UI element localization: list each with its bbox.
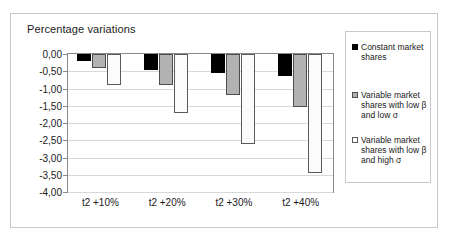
x-axis-labels: t2 +10%t2 +20%t2 +30%t2 +40% (67, 197, 334, 215)
legend-item[interactable]: Variable market shares with low β and lo… (352, 90, 430, 120)
legend-label: Variable market shares with low β and lo… (361, 90, 430, 120)
legend-item[interactable]: Variable market shares with low β and hi… (352, 135, 430, 165)
y-tick-label: -1,00 (39, 83, 62, 94)
plot-area (67, 53, 334, 193)
chart-legend: Constant market sharesVariable market sh… (345, 31, 431, 183)
x-tick-label: t2 +30% (215, 197, 252, 208)
y-tick-label: -3,00 (39, 152, 62, 163)
black-square-marker-icon (352, 44, 358, 50)
y-tick-label: -2,50 (39, 135, 62, 146)
x-tick-label: t2 +10% (82, 197, 119, 208)
y-tick-label: -0,50 (39, 66, 62, 77)
bar (92, 54, 106, 68)
legend-item[interactable]: Constant market shares (352, 42, 430, 62)
y-tick-mark (63, 192, 67, 193)
bar (174, 54, 188, 113)
y-tick-mark (63, 106, 67, 107)
y-axis-labels: 0,00-0,50-1,00-1,50-2,00-2,50-3,00-3,50-… (17, 53, 62, 193)
y-tick-label: -1,50 (39, 100, 62, 111)
bar (226, 54, 240, 95)
x-tick-label: t2 +20% (149, 197, 186, 208)
chart-page: Percentage variations 0,00-0,50-1,00-1,5… (0, 0, 451, 247)
y-tick-mark (63, 123, 67, 124)
white-square-marker-icon (352, 137, 358, 143)
y-tick-mark (63, 140, 67, 141)
y-tick-mark (63, 175, 67, 176)
y-tick-label: 0,00 (43, 49, 62, 60)
y-tick-mark (63, 54, 67, 55)
gray-square-marker-icon (352, 92, 358, 98)
bar (107, 54, 121, 85)
x-tick-label: t2 +40% (282, 197, 319, 208)
legend-label: Constant market shares (361, 42, 430, 62)
bar (308, 54, 322, 173)
bar (211, 54, 225, 73)
bars-layer (68, 54, 333, 192)
bar (278, 54, 292, 76)
gridline (68, 192, 333, 193)
y-tick-mark (63, 71, 67, 72)
bar (159, 54, 173, 85)
y-tick-label: -4,00 (39, 187, 62, 198)
bar (293, 54, 307, 107)
chart-title: Percentage variations (27, 23, 136, 35)
legend-label: Variable market shares with low β and hi… (361, 135, 430, 165)
y-tick-label: -3,50 (39, 169, 62, 180)
bar (144, 54, 158, 70)
bar (77, 54, 91, 61)
chart-frame: Percentage variations 0,00-0,50-1,00-1,5… (10, 13, 438, 228)
y-tick-mark (63, 89, 67, 90)
y-tick-label: -2,00 (39, 118, 62, 129)
y-tick-mark (63, 158, 67, 159)
bar (241, 54, 255, 144)
